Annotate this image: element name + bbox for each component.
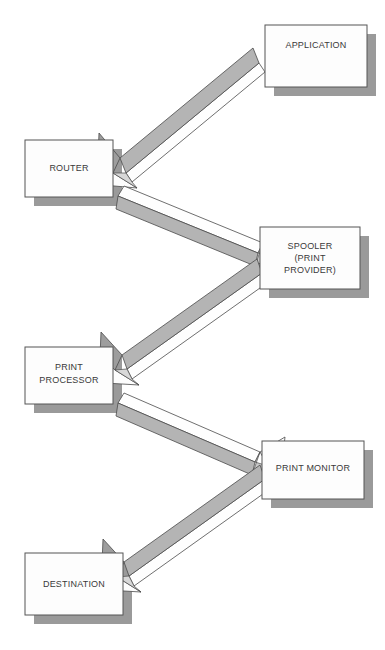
print-monitor-label-line-0: PRINT MONITOR bbox=[276, 463, 351, 473]
spooler-label-line-2: PROVIDER) bbox=[284, 265, 336, 275]
print-processor-label-line-0: PRINT bbox=[55, 362, 83, 372]
diagram-canvas: APPLICATION ROUTER SPOOLER (PRINT PROVID… bbox=[0, 0, 385, 650]
node-application[interactable]: APPLICATION bbox=[265, 25, 367, 87]
node-destination[interactable]: DESTINATION bbox=[25, 553, 123, 615]
print-flow-diagram: APPLICATION ROUTER SPOOLER (PRINT PROVID… bbox=[0, 0, 385, 650]
router-label-line-0: ROUTER bbox=[49, 163, 88, 173]
spooler-label-line-0: SPOOLER bbox=[288, 241, 333, 251]
node-spooler[interactable]: SPOOLER (PRINT PROVIDER) bbox=[260, 227, 360, 289]
node-print-processor[interactable]: PRINT PROCESSOR bbox=[25, 347, 113, 404]
application-box[interactable] bbox=[265, 25, 367, 87]
node-router[interactable]: ROUTER bbox=[25, 140, 113, 197]
spooler-label-line-1: (PRINT bbox=[294, 253, 325, 263]
node-print-monitor[interactable]: PRINT MONITOR bbox=[262, 441, 364, 499]
arrow-spooler-to-print-processor bbox=[100, 259, 267, 385]
print-processor-label-line-1: PROCESSOR bbox=[39, 375, 99, 385]
destination-label-line-0: DESTINATION bbox=[43, 579, 105, 589]
application-label-line-0: APPLICATION bbox=[285, 40, 346, 50]
arrow-application-to-router bbox=[98, 48, 265, 188]
